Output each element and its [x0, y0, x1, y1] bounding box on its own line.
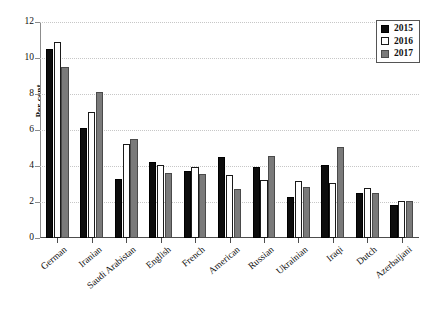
x-axis-label-iraqi: Iraqi	[325, 245, 345, 264]
bar-2016-russian	[260, 180, 267, 239]
bar-group	[80, 22, 103, 238]
x-axis-label-iranian: Iranian	[77, 245, 104, 270]
y-axis-tick-label: 0	[12, 233, 34, 243]
y-axis-tick	[35, 22, 40, 23]
legend-label: 2015	[394, 24, 413, 34]
x-axis-tick	[402, 238, 403, 243]
bar-2016-dutch	[364, 188, 371, 238]
bar-2015-azerbaijani	[390, 205, 397, 238]
x-axis-tick	[161, 238, 162, 243]
bar-2015-iranian	[80, 128, 87, 238]
x-axis-tick	[230, 238, 231, 243]
bar-group	[287, 22, 310, 238]
bar-group	[184, 22, 207, 238]
bar-2017-american	[234, 189, 241, 239]
bar-2017-dutch	[372, 193, 379, 238]
y-axis-tick	[35, 58, 40, 59]
x-axis-label-dutch: Dutch	[356, 245, 380, 267]
y-axis-tick	[35, 94, 40, 95]
legend-swatch-icon	[381, 50, 389, 58]
legend-item-2016[interactable]: 2016	[381, 37, 413, 47]
bar-2015-american	[218, 157, 225, 238]
x-axis-label-american: American	[207, 245, 242, 276]
bar-2016-ukrainian	[295, 181, 302, 238]
bar-2016-iraqi	[329, 183, 336, 238]
bar-group	[218, 22, 241, 238]
bar-2015-dutch	[356, 193, 363, 238]
x-axis-label-french: French	[181, 245, 207, 269]
bar-2017-ukrainian	[303, 187, 310, 238]
chart-legend: 201520162017	[376, 20, 420, 63]
x-axis-tick	[298, 238, 299, 243]
y-axis-tick	[35, 130, 40, 131]
legend-item-2015[interactable]: 2015	[381, 24, 413, 34]
legend-item-2017[interactable]: 2017	[381, 49, 413, 59]
y-axis-tick-label: 10	[12, 53, 34, 63]
page-artifact-strip	[0, 0, 429, 14]
bar-2017-iraqi	[337, 147, 344, 238]
x-axis-tick	[367, 238, 368, 243]
legend-swatch-icon	[381, 25, 389, 33]
x-axis-tick	[57, 238, 58, 243]
y-axis-tick	[35, 166, 40, 167]
bar-2017-iranian	[96, 92, 103, 238]
bar-2016-azerbaijani	[398, 201, 405, 238]
x-axis-tick	[195, 238, 196, 243]
legend-swatch-icon	[381, 37, 389, 45]
x-axis-label-russian: Russian	[247, 245, 276, 272]
legend-label: 2017	[394, 49, 413, 59]
bar-2016-saudi-arabistan	[123, 144, 130, 238]
bar-2015-iraqi	[321, 165, 328, 238]
plot-area: 024681012	[40, 22, 419, 238]
y-axis-tick	[35, 202, 40, 203]
bar-2016-french	[191, 167, 198, 238]
bar-2016-american	[226, 175, 233, 238]
x-axis-tick	[333, 238, 334, 243]
bar-group	[115, 22, 138, 238]
y-axis-tick-label: 8	[12, 89, 34, 99]
y-axis-tick	[35, 238, 40, 239]
bar-2017-german	[61, 67, 68, 238]
bar-group	[253, 22, 276, 238]
legend-label: 2016	[394, 37, 413, 47]
bar-2016-iranian	[88, 112, 95, 238]
bar-2015-ukrainian	[287, 197, 294, 238]
y-axis-tick-label: 2	[12, 197, 34, 207]
x-axis-label-english: English	[144, 245, 172, 271]
x-axis-label-german: German	[40, 245, 70, 272]
x-axis-label-ukrainian: Ukrainian	[275, 245, 310, 277]
bar-2017-french	[199, 174, 206, 238]
chart-figure: Per cent 024681012 GermanIranianSaudi Ar…	[0, 0, 429, 314]
bar-2015-french	[184, 171, 191, 238]
bar-2017-saudi-arabistan	[130, 139, 137, 238]
x-axis-tick	[264, 238, 265, 243]
bar-group	[321, 22, 344, 238]
bar-2017-azerbaijani	[406, 201, 413, 238]
bar-2016-german	[54, 42, 61, 238]
bar-group	[46, 22, 69, 238]
y-axis-tick-label: 4	[12, 161, 34, 171]
bar-2017-english	[165, 173, 172, 238]
bar-2015-english	[149, 162, 156, 238]
x-axis-tick	[126, 238, 127, 243]
bar-2016-english	[157, 165, 164, 238]
x-axis-tick	[92, 238, 93, 243]
bar-2015-german	[46, 49, 53, 238]
bar-group	[149, 22, 172, 238]
y-axis-tick-label: 6	[12, 125, 34, 135]
x-axis-label-azerbaijani: Azerbaijani	[374, 245, 414, 281]
y-axis-tick-label: 12	[12, 17, 34, 27]
bar-2015-saudi-arabistan	[115, 179, 122, 238]
bar-2015-russian	[253, 167, 260, 238]
bar-2017-russian	[268, 156, 275, 238]
